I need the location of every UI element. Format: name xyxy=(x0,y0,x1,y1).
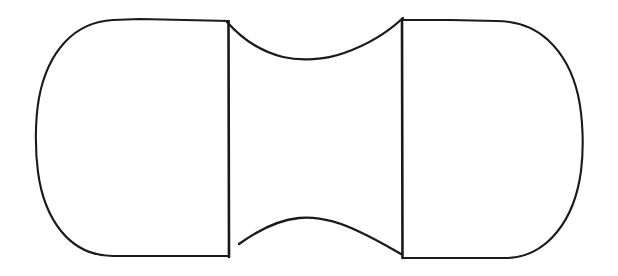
right-flange-line xyxy=(402,19,403,258)
left-lobe-fill xyxy=(36,20,228,256)
waist-fill xyxy=(228,19,402,258)
left-flange-line xyxy=(229,22,230,257)
figure-canvas: Bobbin outline drawing Hand-drawn black … xyxy=(0,0,618,276)
right-lobe-fill xyxy=(402,19,585,258)
bobbin-outline-drawing: Bobbin outline drawing Hand-drawn black … xyxy=(0,0,618,276)
figure-fill-group xyxy=(36,19,586,258)
